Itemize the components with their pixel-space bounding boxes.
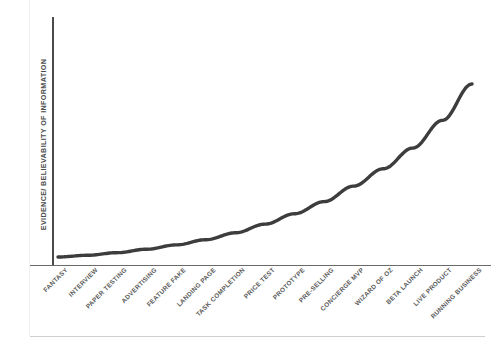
chart-container: EVIDENCE/ BELIEVABILITY OF INFORMATION F… xyxy=(0,0,491,351)
y-axis-line xyxy=(52,17,54,266)
evidence-curve xyxy=(58,84,472,257)
x-axis-tick-label: INTERVIEW xyxy=(67,266,99,298)
x-axis-tick-labels: FANTASYINTERVIEWPAPER TESTINGADVERTISING… xyxy=(0,266,491,351)
x-axis-tick-label: RUNNING BUSINESS xyxy=(429,266,483,320)
y-axis-title: EVIDENCE/ BELIEVABILITY OF INFORMATION xyxy=(39,40,48,250)
x-axis-tick-label: FANTASY xyxy=(42,266,69,293)
